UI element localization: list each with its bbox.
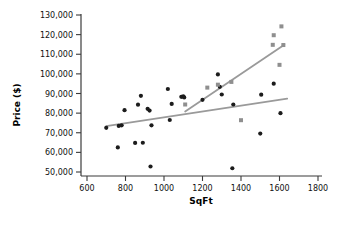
y-tick-label: 60,000 (45, 148, 73, 157)
data-point-squares (278, 63, 282, 67)
scatter-chart: 50,00060,00070,00080,00090,000100,000110… (0, 0, 338, 227)
data-point-squares (272, 33, 276, 37)
data-point-circles (220, 92, 224, 96)
data-point-circles (278, 111, 282, 115)
data-point-circles (149, 123, 153, 127)
data-point-circles (231, 102, 235, 106)
y-tick-label: 50,000 (45, 168, 73, 177)
data-point-circles (133, 141, 137, 145)
data-point-circles (258, 131, 262, 135)
data-point-circles (120, 123, 124, 127)
data-point-circles (147, 108, 151, 112)
y-tick-label: 110,000 (40, 50, 73, 59)
x-axis: 60080010001200140016001800 SqFt (79, 176, 328, 206)
data-point-squares (216, 83, 220, 87)
data-point-circles (216, 72, 220, 76)
data-point-circles (141, 141, 145, 145)
y-tick-label: 70,000 (45, 129, 73, 138)
y-tick-label: 100,000 (40, 70, 73, 79)
data-point-circles (168, 118, 172, 122)
y-tick-label-group: 50,00060,00070,00080,00090,000100,000110… (40, 11, 73, 177)
data-point-squares (239, 118, 243, 122)
x-tick-label: 1400 (231, 184, 251, 193)
data-point-circles (104, 126, 108, 130)
chart-canvas: 50,00060,00070,00080,00090,000100,000110… (0, 0, 338, 227)
x-tick-label: 1800 (308, 184, 328, 193)
y-axis-title: Price ($) (12, 83, 22, 126)
data-point-squares (271, 43, 275, 47)
data-point-circles (200, 98, 204, 102)
data-point-squares (205, 86, 209, 90)
y-tick-label: 120,000 (40, 31, 73, 40)
data-point-circles (170, 102, 174, 106)
data-point-squares (281, 43, 285, 47)
y-tick-label: 90,000 (45, 90, 73, 99)
trend-line-layer (106, 45, 287, 126)
y-tick-label: 130,000 (40, 11, 73, 20)
x-tick-label-group: 60080010001200140016001800 (79, 184, 328, 193)
data-point-squares (183, 102, 187, 106)
x-tick-label: 1000 (154, 184, 174, 193)
data-point-circles (122, 108, 126, 112)
x-tick-label: 1600 (269, 184, 289, 193)
x-tick-label: 800 (118, 184, 133, 193)
data-point-circles (182, 95, 186, 99)
data-point-circles (139, 94, 143, 98)
y-tick-group (76, 15, 81, 172)
x-tick-label: 600 (79, 184, 94, 193)
data-point-circles (272, 82, 276, 86)
x-tick-label: 1200 (192, 184, 212, 193)
data-point-layer (104, 24, 285, 170)
x-tick-group (87, 176, 318, 181)
data-point-circles (136, 103, 140, 107)
data-point-circles (148, 164, 152, 168)
data-point-squares (279, 24, 283, 28)
data-point-circles (230, 166, 234, 170)
data-point-circles (166, 87, 170, 91)
y-tick-label: 80,000 (45, 109, 73, 118)
x-axis-title: SqFt (189, 196, 213, 206)
data-point-circles (259, 93, 263, 97)
y-axis: 50,00060,00070,00080,00090,000100,000110… (12, 11, 81, 177)
data-point-squares (229, 80, 233, 84)
data-point-circles (116, 145, 120, 149)
